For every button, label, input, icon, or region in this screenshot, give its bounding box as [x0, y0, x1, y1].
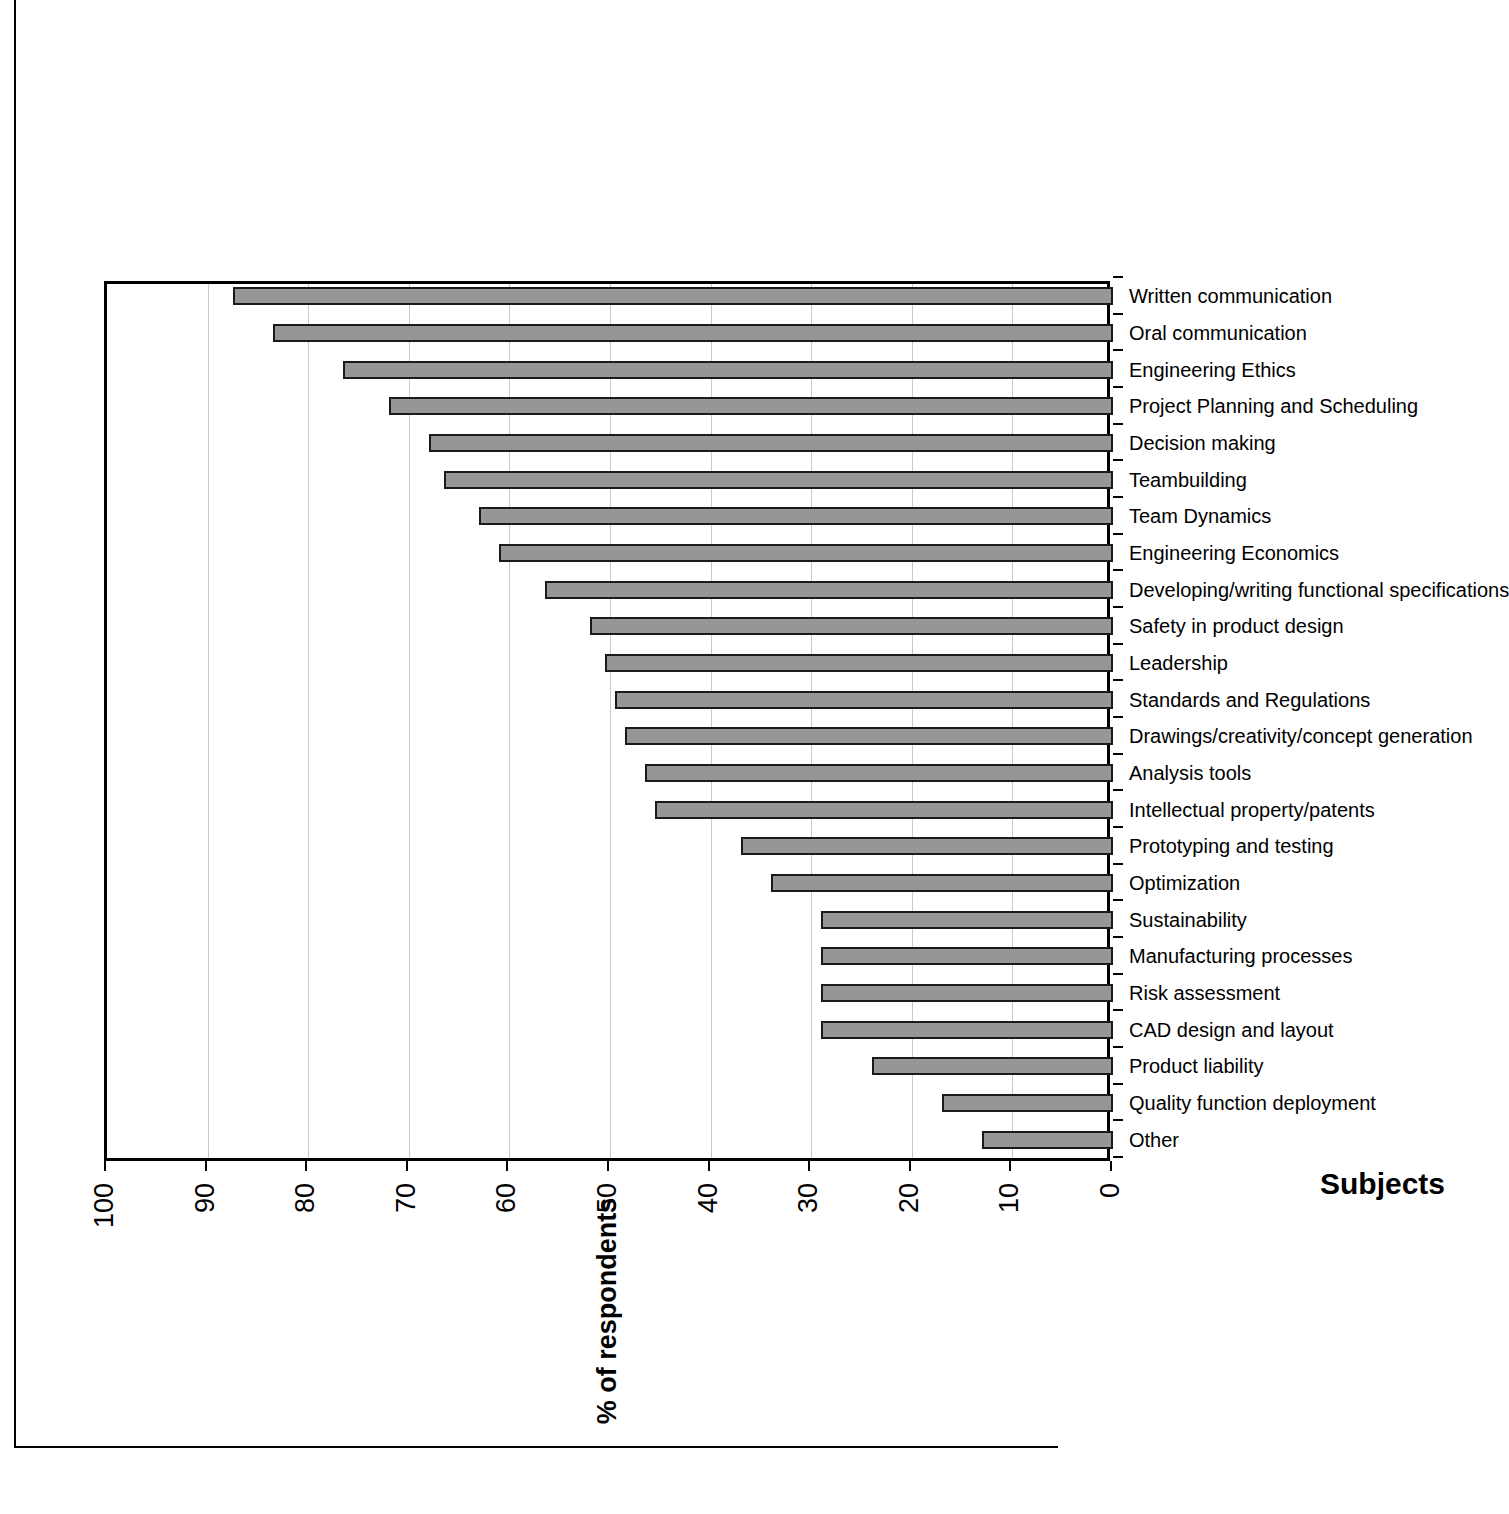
- bar-slot: [107, 1121, 1113, 1158]
- value-tick: [305, 1161, 307, 1171]
- value-tick: [607, 1161, 609, 1171]
- category-label: Developing/writing functional specificat…: [1129, 578, 1509, 601]
- category-label: Manufacturing processes: [1129, 945, 1352, 968]
- value-tick: [104, 1161, 106, 1171]
- category-tick: [1113, 423, 1123, 425]
- bar[interactable]: [982, 1131, 1113, 1149]
- value-tick: [808, 1161, 810, 1171]
- category-label: Team Dynamics: [1129, 505, 1271, 528]
- category-tick: [1113, 606, 1123, 608]
- bar[interactable]: [545, 581, 1113, 599]
- bar[interactable]: [655, 801, 1113, 819]
- category-tick: [1113, 1083, 1123, 1085]
- bar-slot: [107, 828, 1113, 865]
- category-label: Leadership: [1129, 652, 1228, 675]
- value-tick: [1009, 1161, 1011, 1171]
- value-tick: [506, 1161, 508, 1171]
- bar[interactable]: [821, 911, 1113, 929]
- value-tick-label: 70: [390, 1183, 421, 1213]
- bar-slot: [107, 718, 1113, 755]
- value-tick: [708, 1161, 710, 1171]
- plot-frame: OtherQuality function deploymentProduct …: [104, 281, 1110, 1161]
- category-tick: [1113, 313, 1123, 315]
- category-tick: [1113, 863, 1123, 865]
- category-tick: [1113, 643, 1123, 645]
- category-label: Engineering Economics: [1129, 542, 1339, 565]
- bar-chart: OtherQuality function deploymentProduct …: [40, 233, 1018, 1281]
- value-tick: [1110, 1161, 1112, 1171]
- bar-slot: [107, 388, 1113, 425]
- category-label: Teambuilding: [1129, 468, 1247, 491]
- category-tick: [1113, 936, 1123, 938]
- value-tick-label: 40: [692, 1183, 723, 1213]
- category-label: Analysis tools: [1129, 762, 1251, 785]
- bar-slot: [107, 535, 1113, 572]
- category-label: Quality function deployment: [1129, 1092, 1376, 1115]
- category-label: Project Planning and Scheduling: [1129, 395, 1418, 418]
- category-label: Product liability: [1129, 1055, 1264, 1078]
- bar-slot: [107, 315, 1113, 352]
- bar[interactable]: [389, 397, 1113, 415]
- bar-slot: [107, 901, 1113, 938]
- bar[interactable]: [444, 471, 1113, 489]
- bar[interactable]: [273, 324, 1113, 342]
- bar[interactable]: [942, 1094, 1113, 1112]
- bar-slot: [107, 755, 1113, 792]
- category-tick: [1113, 679, 1123, 681]
- bar[interactable]: [233, 287, 1113, 305]
- bar[interactable]: [821, 984, 1113, 1002]
- category-label: Intellectual property/patents: [1129, 798, 1375, 821]
- category-tick: [1113, 276, 1123, 278]
- value-tick-label: 10: [994, 1183, 1025, 1213]
- bar-slot: [107, 938, 1113, 975]
- bar-slot: [107, 1048, 1113, 1085]
- category-label: Drawings/creativity/concept generation: [1129, 725, 1473, 748]
- bar-slot: [107, 608, 1113, 645]
- category-tick: [1113, 1009, 1123, 1011]
- bar-slot: [107, 498, 1113, 535]
- bar[interactable]: [872, 1057, 1113, 1075]
- value-tick-label: 80: [290, 1183, 321, 1213]
- bar-slot: [107, 645, 1113, 682]
- value-axis-title: % of respondents: [592, 1198, 623, 1425]
- category-tick: [1113, 459, 1123, 461]
- bar-series: [107, 284, 1107, 1158]
- bar[interactable]: [499, 544, 1113, 562]
- category-label: Safety in product design: [1129, 615, 1344, 638]
- category-tick: [1113, 973, 1123, 975]
- category-tick: [1113, 826, 1123, 828]
- bar-slot: [107, 1011, 1113, 1048]
- category-tick: [1113, 349, 1123, 351]
- bar[interactable]: [645, 764, 1113, 782]
- value-tick-label: 0: [1095, 1183, 1126, 1198]
- category-label: Oral communication: [1129, 322, 1307, 345]
- chart-plot-area: OtherQuality function deploymentProduct …: [104, 277, 1114, 1161]
- bar[interactable]: [741, 837, 1113, 855]
- value-tick-label: 20: [893, 1183, 924, 1213]
- category-tick: [1113, 496, 1123, 498]
- bar-slot: [107, 791, 1113, 828]
- bar[interactable]: [771, 874, 1113, 892]
- category-tick: [1113, 533, 1123, 535]
- category-tick: [1113, 569, 1123, 571]
- bar[interactable]: [821, 947, 1113, 965]
- bar[interactable]: [479, 507, 1113, 525]
- bar[interactable]: [821, 1021, 1113, 1039]
- bar[interactable]: [625, 727, 1113, 745]
- bar[interactable]: [605, 654, 1113, 672]
- bar[interactable]: [590, 617, 1113, 635]
- bar[interactable]: [343, 361, 1113, 379]
- category-label: Sustainability: [1129, 908, 1247, 931]
- category-tick: [1113, 1046, 1123, 1048]
- bar[interactable]: [615, 691, 1113, 709]
- bar-slot: [107, 1085, 1113, 1122]
- bar[interactable]: [429, 434, 1113, 452]
- value-tick-label: 30: [793, 1183, 824, 1213]
- bar-slot: [107, 351, 1113, 388]
- page-rule-left: [14, 0, 16, 1448]
- bar-slot: [107, 865, 1113, 902]
- value-tick: [406, 1161, 408, 1171]
- category-label: Optimization: [1129, 872, 1240, 895]
- category-label: Prototyping and testing: [1129, 835, 1334, 858]
- category-label: Decision making: [1129, 432, 1276, 455]
